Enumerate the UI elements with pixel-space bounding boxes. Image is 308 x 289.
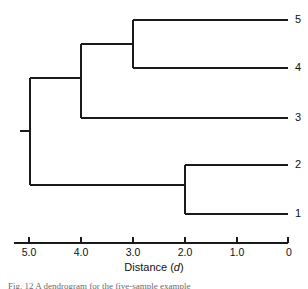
axis-title-prefix: Distance ( (124, 261, 174, 273)
axis-title-suffix: ) (180, 261, 184, 273)
leaf-label-5: 5 (295, 14, 301, 25)
axis-tick-label-2-0: 2.0 (178, 247, 193, 258)
leaf-label-1: 1 (295, 208, 301, 219)
leaf-label-4: 4 (295, 62, 301, 73)
axis-tick-label-0: 0 (286, 247, 292, 258)
dendrogram-figure: 5 4 3 2 1 5.0 4.0 3.0 2.0 1.0 0 Distance… (0, 0, 308, 289)
leaf-label-2: 2 (295, 159, 301, 170)
dendrogram-plot (0, 0, 308, 289)
axis-title: Distance (d) (0, 261, 308, 273)
leaf-label-3: 3 (295, 112, 301, 123)
axis-tick-label-3-0: 3.0 (126, 247, 141, 258)
axis-tick-label-1-0: 1.0 (230, 247, 245, 258)
axis-tick-label-5-0: 5.0 (22, 247, 37, 258)
axis-tick-label-4-0: 4.0 (74, 247, 89, 258)
figure-caption: Fig. 12 A dendrogram for the five-sample… (8, 281, 300, 289)
